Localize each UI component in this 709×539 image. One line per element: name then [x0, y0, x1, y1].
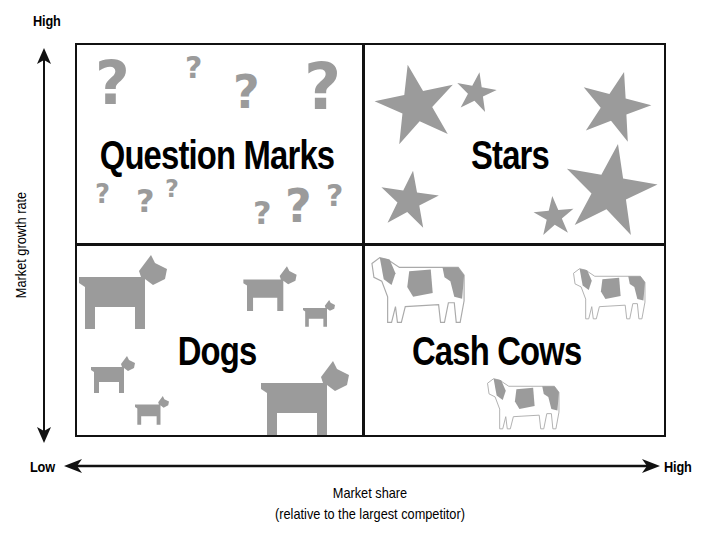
quadrant-dogs: Dogs — [77, 245, 362, 437]
quadrant-label-stars: Stars — [436, 133, 584, 178]
question-mark-icon: ? — [233, 69, 260, 115]
dog-icon — [243, 265, 297, 311]
y-axis-arrow — [36, 48, 52, 443]
star-icon — [564, 141, 656, 233]
dog-icon — [91, 355, 135, 393]
dog-icon — [261, 359, 349, 435]
dog-icon — [303, 299, 335, 327]
dog-icon — [79, 253, 167, 329]
cow-icon — [370, 253, 468, 325]
question-mark-icon: ? — [253, 197, 272, 229]
question-mark-icon: ? — [95, 53, 130, 113]
question-mark-icon: ? — [165, 177, 179, 201]
cow-icon — [572, 263, 648, 323]
question-mark-icon: ? — [95, 181, 110, 207]
star-icon — [380, 169, 438, 227]
star-icon — [580, 69, 650, 139]
question-mark-icon: ? — [136, 185, 155, 217]
question-mark-icon: ? — [185, 53, 202, 83]
question-mark-icon: ? — [326, 181, 343, 211]
x-axis-high-label: High — [664, 458, 692, 475]
quadrant-cash-cows: Cash Cows — [364, 245, 666, 437]
quadrant-label-cash-cows: Cash Cows — [412, 329, 576, 374]
quadrant-stars: Stars — [364, 45, 666, 243]
quadrant-question-marks: ? ? ? ? Question Marks ? ? ? ? ? ? — [77, 45, 362, 243]
question-mark-icon: ? — [304, 55, 341, 119]
x-axis-arrow — [64, 458, 660, 474]
question-mark-icon: ? — [285, 183, 312, 229]
quadrant-label-question-marks: Question Marks — [78, 133, 357, 178]
cow-icon — [486, 373, 562, 433]
x-axis-low-label: Low — [30, 458, 55, 475]
bcg-matrix: ? ? ? ? Question Marks ? ? ? ? ? ? Stars… — [75, 43, 666, 437]
y-axis-title: Market growth rate — [12, 192, 29, 298]
x-axis-subtitle: (relative to the largest competitor) — [226, 505, 515, 522]
dog-icon — [135, 395, 169, 425]
x-axis-title: Market share — [226, 484, 515, 501]
y-axis-high-label: High — [33, 12, 61, 29]
star-icon — [376, 63, 456, 141]
star-icon — [456, 71, 496, 111]
quadrant-label-dogs: Dogs — [168, 329, 266, 374]
